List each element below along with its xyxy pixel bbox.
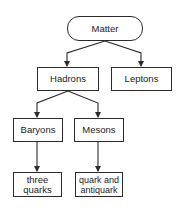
node-baryons: Baryons bbox=[13, 118, 63, 142]
node-leptons: Leptons bbox=[111, 67, 172, 91]
edge-matter-hadrons bbox=[67, 41, 105, 66]
node-three-quarks: three quarks bbox=[13, 172, 62, 197]
node-hadrons: Hadrons bbox=[37, 67, 99, 91]
node-mesons: Mesons bbox=[74, 118, 124, 142]
edge-matter-leptons bbox=[105, 41, 141, 66]
edge-hadrons-mesons bbox=[68, 91, 98, 117]
edge-hadrons-baryons bbox=[37, 91, 68, 117]
node-matter: Matter bbox=[67, 16, 143, 41]
node-quark-and-antiquark: quark and antiquark bbox=[75, 172, 123, 197]
